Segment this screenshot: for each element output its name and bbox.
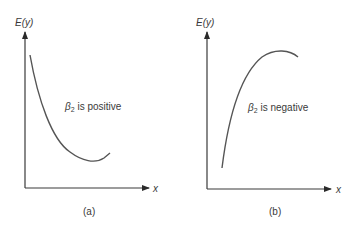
panel-a-y-axis-label: E(y) — [15, 17, 33, 28]
panel-a: E(y) x β2 is positive (a) — [15, 17, 159, 217]
panel-b: E(y) x β2 is negative (b) — [196, 17, 342, 217]
panel-b-y-axis-label: E(y) — [196, 17, 214, 28]
panel-a-annotation: β2 is positive — [64, 101, 122, 113]
panel-b-x-axis-label: x — [335, 184, 342, 195]
quadratic-model-diagram: E(y) x β2 is positive (a) E(y) x β2 is n… — [0, 0, 355, 228]
panel-b-annotation: β2 is negative — [247, 102, 309, 114]
panel-b-caption: (b) — [269, 206, 281, 217]
panel-a-caption: (a) — [83, 206, 95, 217]
panel-a-x-axis-label: x — [152, 183, 159, 194]
